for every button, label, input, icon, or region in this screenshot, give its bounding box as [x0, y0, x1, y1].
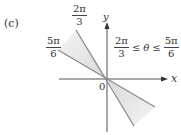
x-axis-label: x	[171, 73, 177, 84]
theta-symbol: θ	[143, 42, 149, 53]
x-axis-arrow-icon	[161, 77, 168, 82]
inequality-upper-bound: 5π 6	[164, 36, 179, 59]
panel-label: (c)	[4, 18, 19, 29]
angle-label-5pi-6: 5π 6	[46, 36, 61, 59]
inequality-lower-bound: 2π 3	[114, 36, 129, 59]
y-axis-arrow-icon	[105, 22, 110, 29]
polar-region-diagram	[0, 0, 181, 135]
origin-label: 0	[99, 82, 105, 92]
angle-inequality: 2π 3 ≤ θ ≤ 5π 6	[114, 36, 179, 59]
angle-label-2pi-3: 2π 3	[72, 4, 87, 27]
y-axis-label: y	[103, 12, 109, 22]
